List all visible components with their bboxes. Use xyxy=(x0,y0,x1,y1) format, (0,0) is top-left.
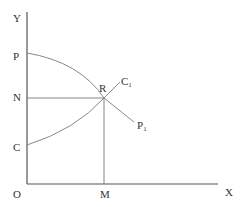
curve-label-C1-sub: 1 xyxy=(128,81,132,89)
curve-P-P1 xyxy=(27,53,134,122)
point-label-C: C xyxy=(13,141,20,153)
diagram-svg: Y P N C O M X R C1 P1 xyxy=(0,0,243,207)
diagram-canvas: Y P N C O M X R C1 P1 xyxy=(0,0,243,207)
point-label-R: R xyxy=(99,82,107,94)
curve-label-C1-base: C xyxy=(121,75,128,87)
point-label-N: N xyxy=(13,91,21,103)
curve-label-P1: P1 xyxy=(137,119,147,133)
origin-label: O xyxy=(13,188,21,200)
point-label-P: P xyxy=(13,50,19,62)
curve-label-C1: C1 xyxy=(121,75,132,89)
x-axis-label: X xyxy=(225,186,233,198)
curve-label-P1-sub: 1 xyxy=(143,125,147,133)
y-axis-label: Y xyxy=(13,12,21,24)
point-label-M: M xyxy=(100,188,110,200)
